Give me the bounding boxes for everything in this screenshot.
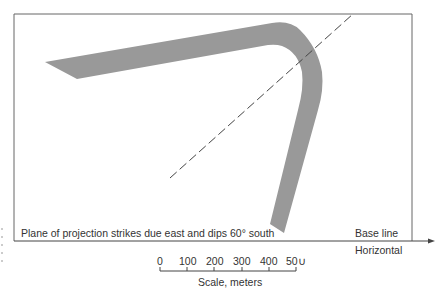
projection-caption: Plane of projection strikes due east and… bbox=[21, 227, 274, 239]
scale-tick-0: 0 bbox=[157, 255, 163, 267]
scale-label: Scale, meters bbox=[198, 276, 262, 288]
base-line-label: Base line bbox=[355, 227, 398, 239]
folded-layer-band bbox=[45, 22, 323, 233]
scale-tick-500: 50∪ bbox=[286, 255, 306, 267]
scale-tick-200: 200 bbox=[206, 255, 224, 267]
scale-tick-100: 100 bbox=[179, 255, 197, 267]
scale-bar bbox=[160, 267, 296, 271]
scale-tick-300: 300 bbox=[233, 255, 251, 267]
scale-tick-400: 400 bbox=[260, 255, 278, 267]
arrow-head-icon bbox=[428, 239, 435, 244]
horizontal-label: Horizontal bbox=[355, 244, 402, 256]
